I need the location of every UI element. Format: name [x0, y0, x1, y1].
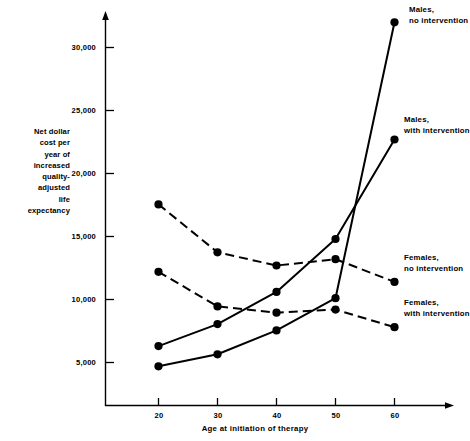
x-tick-label-50: 50 [323, 411, 349, 420]
series-label-females-with-intervention: Females, with intervention [404, 297, 470, 319]
data-point [213, 302, 221, 310]
data-point [154, 268, 162, 276]
chart-figure: 30,000 25,000 20,000 15,000 10,000 5,000… [0, 0, 470, 441]
x-tick-label-60: 60 [382, 411, 408, 420]
data-point [272, 261, 280, 269]
data-point [272, 309, 280, 317]
y-axis-ticks [105, 48, 114, 363]
y-axis-title-line-2: year of [2, 149, 70, 160]
y-tick-label-5000: 5,000 [50, 358, 96, 367]
data-point [213, 320, 221, 328]
chart-plot-area [0, 0, 470, 441]
data-point [272, 288, 280, 296]
series-line [159, 272, 395, 327]
data-point [331, 255, 339, 263]
series-label-line-0: Females, [404, 297, 470, 308]
series-line [159, 204, 395, 282]
y-axis-title-line-3: increased [2, 160, 70, 171]
series-label-line-0: Females, [404, 252, 463, 263]
data-point [272, 326, 280, 334]
data-point [213, 350, 221, 358]
series-2 [154, 200, 398, 286]
series-label-line-1: with intervention [404, 125, 470, 136]
data-point [390, 278, 398, 286]
series-label-males-with-intervention: Males, with intervention [404, 114, 470, 136]
data-point [390, 135, 398, 143]
series-label-females-no-intervention: Females, no intervention [404, 252, 463, 274]
x-tick-label-40: 40 [264, 411, 290, 420]
y-axis-title-line-5: adjusted [2, 182, 70, 193]
series-label-line-1: no intervention [404, 263, 463, 274]
data-point [331, 294, 339, 302]
data-series-layer [154, 18, 398, 370]
data-point [213, 248, 221, 256]
series-label-line-0: Males, [409, 4, 468, 15]
x-axis-title: Age at initiation of therapy [145, 424, 365, 433]
series-label-line-0: Males, [404, 114, 470, 125]
data-point [154, 342, 162, 350]
y-tick-label-10000: 10,000 [50, 295, 96, 304]
series-label-line-1: no intervention [409, 15, 468, 26]
y-tick-label-15000: 15,000 [50, 232, 96, 241]
data-point [331, 235, 339, 243]
data-point [390, 323, 398, 331]
y-axis-title-line-6: life [2, 194, 70, 205]
data-point [154, 362, 162, 370]
x-tick-label-30: 30 [205, 411, 231, 420]
y-axis-title-line-1: cost per [2, 137, 70, 148]
y-axis-title: Net dollar cost per year of increased qu… [2, 126, 70, 216]
data-point [390, 18, 398, 26]
data-point [331, 306, 339, 314]
series-label-line-1: with intervention [404, 308, 470, 319]
y-axis-title-line-0: Net dollar [2, 126, 70, 137]
x-tick-label-20: 20 [146, 411, 172, 420]
series-3 [154, 268, 398, 332]
y-axis-title-line-7: expectancy [2, 205, 70, 216]
y-axis-title-line-4: quality- [2, 171, 70, 182]
y-tick-label-30000: 30,000 [50, 43, 96, 52]
axis-lines [102, 11, 454, 409]
data-point [154, 200, 162, 208]
series-label-males-no-intervention: Males, no intervention [409, 4, 468, 26]
y-tick-label-25000: 25,000 [50, 106, 96, 115]
